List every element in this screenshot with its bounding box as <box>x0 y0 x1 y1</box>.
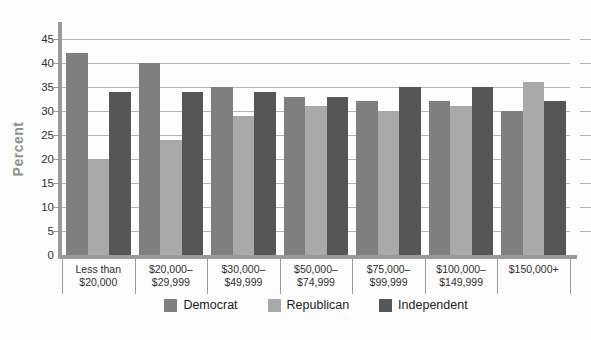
bar-republican-7 <box>523 82 545 255</box>
x-label-line: $50,000– <box>280 263 353 276</box>
legend-swatch-democrat <box>164 299 177 312</box>
legend: DemocratRepublicanIndependent <box>62 298 570 312</box>
y-tick-label-20: 20 <box>26 153 54 165</box>
legend-item-independent: Independent <box>379 298 468 312</box>
y-tick-label-45: 45 <box>26 33 54 45</box>
right-tick-10 <box>580 207 591 208</box>
y-tick-label-0: 0 <box>26 249 54 261</box>
right-tick-45 <box>580 39 591 40</box>
left-tick-25 <box>54 135 58 136</box>
x-category-label-6: $100,000–$149,999 <box>425 263 498 289</box>
y-tick-label-30: 30 <box>26 105 54 117</box>
legend-label-republican: Republican <box>287 298 350 312</box>
bar-democrat-4 <box>284 97 306 255</box>
x-label-line: $20,000– <box>135 263 208 276</box>
legend-item-democrat: Democrat <box>164 298 237 312</box>
y-tick-label-40: 40 <box>26 57 54 69</box>
right-tick-30 <box>580 111 591 112</box>
bar-group-1 <box>62 22 135 255</box>
bar-republican-2 <box>160 140 182 255</box>
left-tick-40 <box>54 63 58 64</box>
left-tick-10 <box>54 207 58 208</box>
x-axis-line <box>58 255 577 259</box>
x-category-label-4: $50,000–$74,999 <box>280 263 353 289</box>
bar-group-7 <box>497 22 570 255</box>
y-tick-label-15: 15 <box>26 177 54 189</box>
right-tick-20 <box>580 159 591 160</box>
right-tick-40 <box>580 63 591 64</box>
x-label-line: $74,999 <box>280 276 353 289</box>
bar-republican-6 <box>450 106 472 255</box>
legend-swatch-independent <box>379 299 392 312</box>
left-tick-5 <box>54 231 58 232</box>
right-tick-15 <box>580 183 591 184</box>
x-label-line: $149,999 <box>425 276 498 289</box>
x-category-label-3: $30,000–$49,999 <box>207 263 280 289</box>
y-tick-label-25: 25 <box>26 129 54 141</box>
bar-independent-4 <box>327 97 349 255</box>
bar-independent-5 <box>399 87 421 255</box>
y-tick-label-10: 10 <box>26 201 54 213</box>
bar-republican-5 <box>378 111 400 255</box>
bar-independent-7 <box>544 101 566 255</box>
y-tick-label-5: 5 <box>26 225 54 237</box>
x-category-label-1: Less than$20,000 <box>62 263 135 289</box>
bar-republican-3 <box>233 116 255 255</box>
left-tick-45 <box>54 39 58 40</box>
right-tick-25 <box>580 135 591 136</box>
x-label-line: $100,000– <box>425 263 498 276</box>
bar-republican-1 <box>88 159 110 255</box>
left-tick-35 <box>54 87 58 88</box>
x-label-line: $49,999 <box>207 276 280 289</box>
left-tick-30 <box>54 111 58 112</box>
left-tick-20 <box>54 159 58 160</box>
x-label-line: $99,999 <box>352 276 425 289</box>
bar-democrat-1 <box>66 53 88 255</box>
bar-democrat-5 <box>356 101 378 255</box>
x-category-label-2: $20,000–$29,999 <box>135 263 208 289</box>
legend-swatch-republican <box>268 299 281 312</box>
x-label-line: $29,999 <box>135 276 208 289</box>
x-label-line: $30,000– <box>207 263 280 276</box>
left-tick-15 <box>54 183 58 184</box>
x-category-label-5: $75,000–$99,999 <box>352 263 425 289</box>
y-axis-title: Percent <box>10 69 26 229</box>
bar-independent-1 <box>109 92 131 255</box>
bar-republican-4 <box>305 106 327 255</box>
bar-independent-2 <box>182 92 204 255</box>
bar-democrat-3 <box>211 87 233 255</box>
bar-democrat-7 <box>501 111 523 255</box>
x-category-label-7: $150,000+ <box>497 263 570 276</box>
x-label-line: $75,000– <box>352 263 425 276</box>
right-tick-5 <box>580 231 591 232</box>
bar-group-2 <box>135 22 208 255</box>
bar-independent-6 <box>472 87 494 255</box>
x-label-line: $20,000 <box>62 276 135 289</box>
bar-group-6 <box>425 22 498 255</box>
legend-label-democrat: Democrat <box>183 298 237 312</box>
right-tick-35 <box>580 87 591 88</box>
y-tick-label-35: 35 <box>26 81 54 93</box>
x-label-line: $150,000+ <box>497 263 570 276</box>
party-by-income-bar-chart: Percent 051015202530354045 Less than$20,… <box>0 0 591 340</box>
x-label-line: Less than <box>62 263 135 276</box>
category-separator-last <box>570 259 571 294</box>
bar-group-4 <box>280 22 353 255</box>
legend-label-independent: Independent <box>398 298 468 312</box>
bar-democrat-2 <box>139 63 161 255</box>
bar-group-3 <box>207 22 280 255</box>
legend-item-republican: Republican <box>268 298 350 312</box>
bar-group-5 <box>352 22 425 255</box>
bar-independent-3 <box>254 92 276 255</box>
bar-democrat-6 <box>429 101 451 255</box>
